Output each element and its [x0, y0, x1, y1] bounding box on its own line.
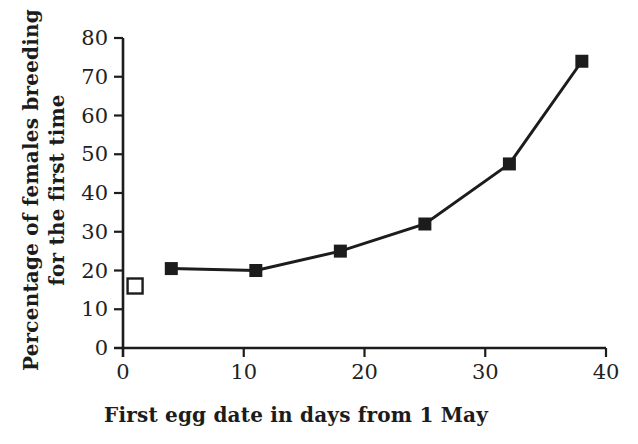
filled-square-marker [503, 157, 516, 170]
x-axis-label: First egg date in days from 1 May [0, 403, 592, 427]
x-tick-label: 10 [230, 360, 257, 384]
y-tick-label: 30 [81, 220, 108, 244]
y-tick-label: 10 [81, 297, 108, 321]
filled-square-marker [575, 55, 588, 68]
filled-square-marker [418, 218, 431, 231]
filled-square-marker [165, 262, 178, 275]
x-tick-label: 20 [351, 360, 378, 384]
y-tick-label: 60 [81, 104, 108, 128]
y-tick-label: 50 [81, 142, 108, 166]
y-tick-label: 80 [81, 26, 108, 50]
plot-canvas: 01020304050607080010203040 [0, 0, 638, 444]
y-axis-label: Percentage of females breeding for the f… [18, 9, 70, 371]
open-square-marker [128, 279, 143, 294]
x-tick-label: 0 [116, 360, 129, 384]
y-tick-label: 20 [81, 259, 108, 283]
x-tick-label: 40 [593, 360, 620, 384]
data-line [171, 61, 582, 270]
y-tick-label: 70 [81, 65, 108, 89]
y-tick-label: 0 [95, 336, 108, 360]
y-tick-label: 40 [81, 181, 108, 205]
filled-square-marker [334, 245, 347, 258]
scatter-line-figure: 01020304050607080010203040 Percentage of… [0, 0, 638, 444]
y-axis-label-line1: Percentage of females breeding [18, 9, 44, 371]
filled-square-marker [249, 264, 262, 277]
x-tick-label: 30 [472, 360, 499, 384]
y-axis-label-line2: for the first time [44, 9, 70, 371]
